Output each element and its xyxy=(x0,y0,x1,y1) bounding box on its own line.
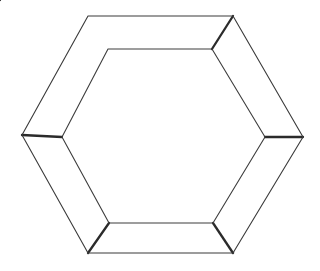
figure-canvas xyxy=(0,0,320,271)
hexagonal-frame-drawing xyxy=(0,0,320,271)
